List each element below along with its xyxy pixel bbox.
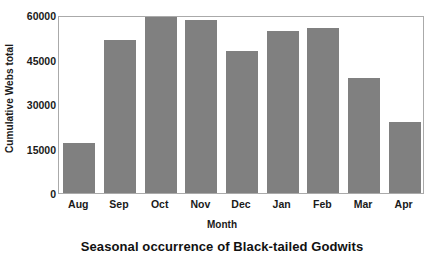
bar-jan <box>267 31 299 193</box>
bar-feb <box>307 28 339 193</box>
x-axis-tick-label: Sep <box>99 198 140 211</box>
y-axis-tick-label: 45000 <box>10 55 56 66</box>
bar-aug <box>63 143 95 193</box>
bar-nov <box>185 20 217 193</box>
x-axis-tick-label: Oct <box>139 198 180 211</box>
x-axis-tick-label: Mar <box>343 198 384 211</box>
bar-mar <box>348 78 380 193</box>
y-axis-tick-label: 0 <box>10 189 56 200</box>
y-axis-tick-label: 60000 <box>10 11 56 22</box>
x-axis-tick-label: Nov <box>180 198 221 211</box>
x-axis-tick-label: Feb <box>302 198 343 211</box>
plot-area <box>58 16 424 194</box>
y-axis-tick-label: 30000 <box>10 100 56 111</box>
x-axis-tick-label: Jan <box>261 198 302 211</box>
bar-dec <box>226 51 258 193</box>
chart-title: Seasonal occurrence of Black-tailed Godw… <box>0 239 444 254</box>
bar-series <box>59 17 423 193</box>
x-axis-title: Month <box>0 219 444 230</box>
x-axis-tick-labels: AugSepOctNovDecJanFebMarApr <box>58 198 424 214</box>
bar-apr <box>389 122 421 193</box>
x-axis-tick-label: Dec <box>221 198 262 211</box>
bar-oct <box>145 17 177 193</box>
y-axis-tick-label: 15000 <box>10 144 56 155</box>
chart-figure: Cumulative Webs total 015000300004500060… <box>0 0 444 261</box>
x-axis-tick-label: Aug <box>58 198 99 211</box>
bar-sep <box>104 40 136 193</box>
x-axis-tick-label: Apr <box>383 198 424 211</box>
